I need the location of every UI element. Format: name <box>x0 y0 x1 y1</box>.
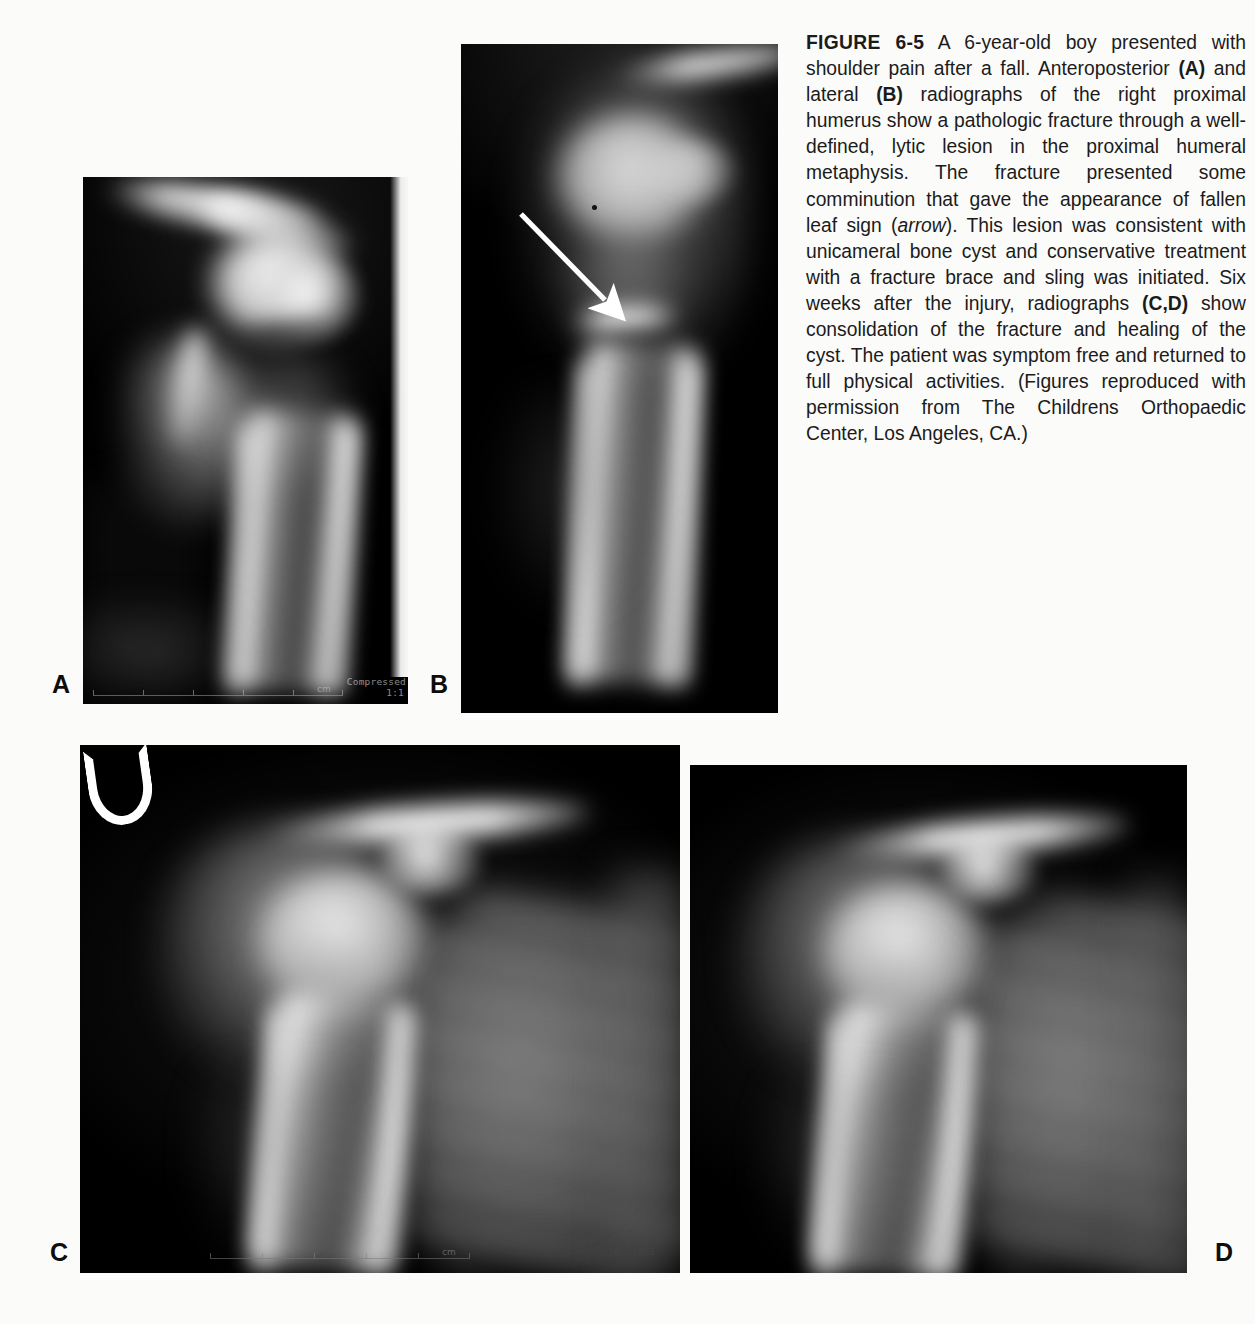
radiograph-panel-d <box>690 765 1187 1273</box>
figure-page: Compressed 1:1 cm A <box>0 0 1255 1324</box>
ruler-tick <box>366 1253 367 1258</box>
panel-c-ruler-line <box>210 1258 470 1259</box>
panel-a-ruler-unit: cm <box>317 684 331 694</box>
panel-c-overlay-text-2: JQ: 1001 <box>608 1246 655 1258</box>
panel-a-soft-tissue <box>83 607 253 704</box>
panel-label-c: C <box>50 1240 68 1265</box>
panel-c-overlay-text: Compressed 52:1 <box>572 1234 661 1246</box>
panel-d-mediastinum <box>1127 875 1187 1265</box>
ruler-tick <box>193 690 194 695</box>
caption-text-3: radiographs of the right proximal humeru… <box>806 84 1246 235</box>
ruler-tick <box>314 1253 315 1258</box>
ruler-tick <box>262 1253 263 1258</box>
caption-ref-b: (B) <box>876 84 903 105</box>
panel-b-film <box>461 44 778 713</box>
panel-c-ruler-unit: cm <box>442 1247 456 1257</box>
figure-caption: FIGURE 6-5 A 6-year-old boy presented wi… <box>806 30 1246 448</box>
panel-c-ruler: cm <box>210 1258 470 1259</box>
panel-c-film: Compressed 52:1 JQ: 1001 cm <box>80 745 680 1273</box>
panel-a-film: Compressed 1:1 cm <box>83 177 408 704</box>
ruler-tick <box>143 690 144 695</box>
caption-ref-cd: (C,D) <box>1142 293 1188 314</box>
panel-c-axilla <box>190 1065 370 1265</box>
radiograph-panel-b <box>461 44 778 713</box>
panel-a-overlay-text-2: 1:1 <box>386 687 404 699</box>
ruler-tick <box>243 690 244 695</box>
figure-number: FIGURE 6-5 <box>806 32 924 53</box>
caption-ref-a: (A) <box>1178 58 1205 79</box>
caption-arrow-word: arrow <box>898 215 946 236</box>
panel-a-ruler: cm <box>93 695 343 696</box>
panel-a-ruler-line <box>93 695 343 696</box>
radiograph-panel-a: Compressed 1:1 cm <box>83 177 408 704</box>
panel-d-axilla <box>760 1075 935 1270</box>
ruler-tick <box>418 1253 419 1258</box>
caption-text-5: show consolidation of the fracture and h… <box>806 293 1246 444</box>
panel-c-mediastinum <box>610 865 680 1265</box>
panel-d-film <box>690 765 1187 1273</box>
panel-a-film-edge <box>390 177 408 677</box>
ruler-tick <box>293 690 294 695</box>
panel-b-artifact-dot <box>592 205 597 210</box>
panel-b-soft-tissue <box>491 384 641 614</box>
panel-label-a: A <box>52 672 70 697</box>
panel-label-b: B <box>430 672 448 697</box>
panel-label-d: D <box>1215 1240 1233 1265</box>
ruler-tick <box>342 690 343 695</box>
panel-c-marker-artifact <box>83 745 157 829</box>
radiograph-panel-c: Compressed 52:1 JQ: 1001 cm <box>80 745 680 1273</box>
ruler-tick <box>93 690 94 695</box>
ruler-tick <box>469 1253 470 1258</box>
ruler-tick <box>210 1253 211 1258</box>
